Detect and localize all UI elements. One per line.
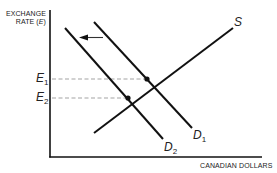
y-axis-label-line2: RATE (E) (2, 18, 46, 26)
d1-label-text: D (193, 128, 202, 142)
d2-label-sub: 2 (173, 147, 177, 156)
shift-left-arrow-icon (79, 35, 103, 41)
y-axis-label-text: RATE ( (16, 18, 39, 25)
demand-d2-label: D2 (164, 140, 177, 156)
equilibrium-point-e2 (125, 95, 130, 100)
demand-curve-d1 (94, 22, 192, 128)
supply-curve-label: S (234, 15, 242, 29)
e2-label: E2 (36, 90, 48, 106)
e2-label-sub: 2 (44, 97, 48, 106)
d1-label-sub: 1 (202, 135, 206, 144)
demand-d1-label: D1 (193, 128, 206, 144)
supply-label-text: S (234, 15, 242, 29)
e1-label-text: E (36, 71, 44, 85)
y-axis-label-line1: EXCHANGE (2, 10, 46, 18)
equilibrium-point-e1 (144, 76, 149, 81)
x-axis-label: CANADIAN DOLLARS (200, 162, 272, 170)
y-axis-label-close: ) (44, 18, 46, 25)
e1-label-sub: 1 (44, 78, 48, 87)
e2-label-text: E (36, 90, 44, 104)
d2-label-text: D (164, 140, 173, 154)
e1-label: E1 (36, 71, 48, 87)
y-axis-label: EXCHANGE RATE (E) (2, 10, 46, 26)
